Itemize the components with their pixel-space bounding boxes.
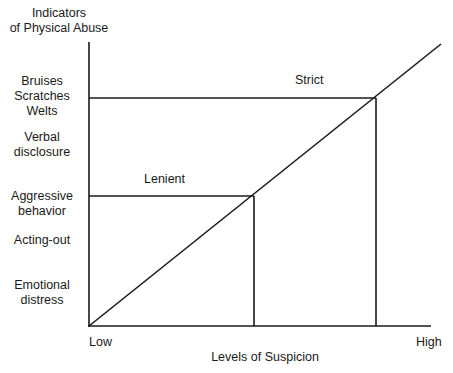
suspicion-diagonal [89,44,441,326]
plot-area [0,0,453,373]
